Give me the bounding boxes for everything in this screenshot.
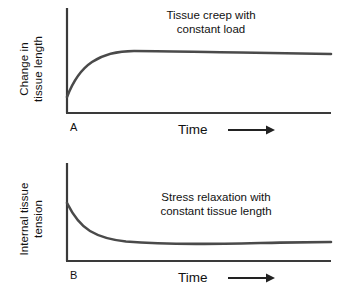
panel-b: Internal tissue tension Stress relaxatio… (0, 147, 339, 294)
panel-b-y-axis-title: Internal tissue tension (18, 163, 45, 275)
panel-b-y-axis-title-line2: tension (32, 163, 46, 275)
panel-a-arrow-right-icon (228, 126, 275, 135)
panel-a: Change in tissue length Tissue creep wit… (0, 0, 339, 147)
panel-a-annotation-line1: Tissue creep with (138, 8, 284, 22)
panel-a-annotation-line2: constant load (138, 22, 284, 36)
panel-a-creep-curve (67, 51, 331, 97)
panel-b-annotation-line1: Stress relaxation with (126, 190, 306, 204)
figure-container: Change in tissue length Tissue creep wit… (0, 0, 339, 294)
panel-a-y-axis-title: Change in tissue length (18, 14, 45, 124)
panel-b-annotation: Stress relaxation with constant tissue l… (126, 190, 306, 218)
panel-b-letter: B (70, 269, 77, 281)
panel-b-plot (0, 147, 339, 294)
panel-a-letter: A (70, 121, 77, 133)
panel-a-y-axis-title-line1: Change in (18, 14, 32, 124)
panel-b-annotation-line2: constant tissue length (126, 204, 306, 218)
panel-b-x-axis-title: Time (178, 270, 208, 285)
panel-a-y-axis-title-line2: tissue length (32, 14, 46, 124)
panel-b-y-axis-title-line1: Internal tissue (18, 163, 32, 275)
panel-a-x-axis-title: Time (178, 122, 208, 137)
panel-b-arrow-right-icon (228, 274, 275, 283)
panel-a-annotation: Tissue creep with constant load (138, 8, 284, 36)
